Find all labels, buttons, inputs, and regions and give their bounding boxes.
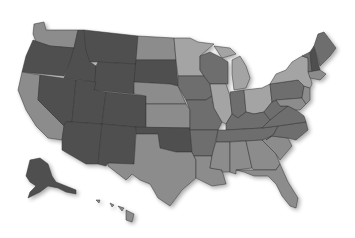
state-south-dakota[interactable]: South Dakota (134, 60, 178, 86)
state-arizona[interactable]: Arizona (62, 122, 102, 164)
state-colorado[interactable]: Colorado (102, 92, 146, 128)
state-north-dakota[interactable]: North Dakota (136, 36, 176, 60)
us-map: Washington Oregon California Idaho Nevad… (0, 0, 355, 238)
state-wyoming[interactable]: Wyoming (94, 62, 136, 94)
state-new-mexico[interactable]: New Mexico (98, 124, 136, 166)
us-map-svg: Washington Oregon California Idaho Nevad… (0, 0, 355, 238)
state-hawaii[interactable]: Hawaii (96, 200, 134, 222)
state-kansas[interactable]: Kansas (146, 104, 190, 128)
state-florida[interactable]: Florida (236, 164, 298, 208)
state-montana[interactable]: Montana (84, 30, 138, 64)
state-alaska[interactable]: Alaska (26, 158, 76, 198)
